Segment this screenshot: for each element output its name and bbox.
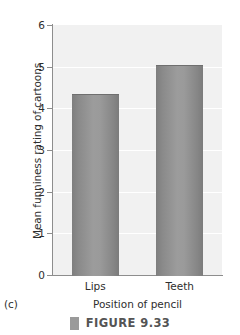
y-tick-mark xyxy=(47,233,53,234)
y-tick-mark xyxy=(47,25,53,26)
y-tick-label: 1 xyxy=(3,227,45,239)
y-tick-label: 2 xyxy=(3,186,45,198)
y-tick-label: 3 xyxy=(3,144,45,156)
x-tick-label: Teeth xyxy=(166,280,194,292)
y-tick-mark xyxy=(47,275,53,276)
panel-letter: (c) xyxy=(4,298,18,310)
bar-lips xyxy=(72,94,119,276)
y-tick-label: 6 xyxy=(3,19,45,31)
figure-panel-c: Mean funniness rating of cartoons 012345… xyxy=(0,0,240,335)
square-marker-icon xyxy=(70,317,79,330)
x-tick-label: Lips xyxy=(85,280,106,292)
y-tick-mark xyxy=(47,192,53,193)
figure-caption-text: FIGURE 9.33 xyxy=(86,316,170,330)
y-tick-mark xyxy=(47,67,53,68)
y-tick-mark xyxy=(47,108,53,109)
x-axis-title: Position of pencil xyxy=(53,298,222,310)
y-tick-label: 0 xyxy=(3,269,45,281)
y-tick-label: 5 xyxy=(3,61,45,73)
y-tick-mark xyxy=(47,150,53,151)
y-tick-label: 4 xyxy=(3,102,45,114)
bar-teeth xyxy=(156,65,203,276)
figure-caption: FIGURE 9.33 xyxy=(0,316,240,330)
